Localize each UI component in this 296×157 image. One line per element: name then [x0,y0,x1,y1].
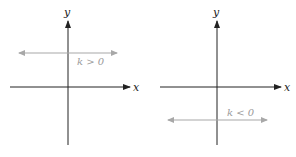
panel-k-negative: x y k < 0 [160,6,291,145]
line-label-k-negative: k < 0 [227,107,255,118]
y-axis-label: y [212,6,220,19]
x-axis-label: x [284,81,291,94]
line-label-k-positive: k > 0 [77,56,105,67]
x-axis-label: x [133,81,140,94]
y-axis-label: y [63,6,71,19]
diagram-canvas: x y k > 0 x y k < 0 [0,0,296,157]
panel-k-positive: x y k > 0 [10,6,140,145]
